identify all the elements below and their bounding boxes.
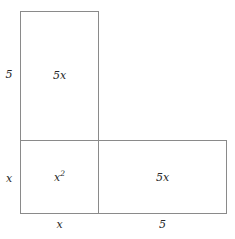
area-label-bottom-left: x2: [20, 172, 99, 183]
dimension-label-bottom-left: x: [20, 219, 99, 230]
area-label-top: 5x: [20, 70, 99, 81]
area-label-bottom-left-exponent: 2: [60, 169, 65, 178]
area-model-figure: 5x x2 5x 5 x x 5: [0, 0, 235, 239]
dimension-label-left-bottom: x: [0, 173, 18, 184]
dimension-label-left-top: 5: [0, 69, 18, 80]
dimension-label-bottom-right: 5: [98, 219, 227, 230]
area-label-bottom-right: 5x: [98, 172, 227, 183]
